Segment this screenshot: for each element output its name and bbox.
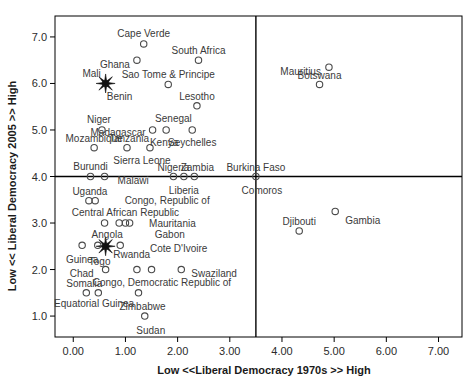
data-point-label: Botswana [298, 70, 342, 81]
data-point-label: Cote D'Ivoire [150, 243, 208, 254]
scatter-chart: 0.001.002.003.004.005.006.007.00 1.02.03… [0, 0, 470, 382]
data-point-label: Sao Tome & Principe [122, 69, 216, 80]
data-point-label: Djibouti [283, 216, 316, 227]
data-point-label: Tanzania [109, 133, 149, 144]
data-point-label: Mali [82, 68, 100, 79]
data-point-label: Benin [107, 91, 133, 102]
data-point-label: Equatorial Guinea [54, 298, 134, 309]
data-point-label: Niger [87, 114, 112, 125]
data-point-label: Burundi [73, 161, 107, 172]
data-point-label: South Africa [172, 45, 226, 56]
x-tick-label: 7.00 [428, 345, 449, 357]
y-tick-label: 4.0 [32, 171, 47, 183]
y-tick-label: 3.0 [32, 217, 47, 229]
data-point-label: Cape Verde [117, 28, 170, 39]
scatter-plot-canvas: 0.001.002.003.004.005.006.007.00 1.02.03… [0, 0, 470, 382]
x-tick-label: 6.00 [376, 345, 397, 357]
x-tick-label: 1.00 [115, 345, 136, 357]
data-point-label: Gambia [345, 215, 380, 226]
data-point-label: Lesotho [179, 91, 215, 102]
data-point-label: Congo, Democratic Republic of [93, 277, 232, 288]
data-point-label: Gabon [155, 229, 185, 240]
y-tick-label: 5.0 [32, 124, 47, 136]
x-axis-title: Low <<Liberal Democracy 1970s >> High [157, 364, 371, 376]
data-point-label: Seychelles [168, 137, 216, 148]
data-point-label: Comoros [242, 185, 283, 196]
y-tick-label: 1.0 [32, 310, 47, 322]
data-point-label: Burkina Faso [226, 162, 285, 173]
data-point-label: Malawi [118, 175, 149, 186]
x-tick-label: 3.00 [219, 345, 240, 357]
data-point-label: Congo, Republic of [125, 195, 210, 206]
data-point-label: Uganda [72, 186, 107, 197]
y-tick-label: 2.0 [32, 264, 47, 276]
data-point-label: Zambia [181, 162, 215, 173]
x-tick-label: 2.00 [167, 345, 188, 357]
chart-background [0, 0, 470, 382]
y-tick-label: 7.0 [32, 31, 47, 43]
data-point-label: Togo [89, 256, 111, 267]
x-tick-label: 5.00 [323, 345, 344, 357]
data-point-label: Senegal [155, 113, 192, 124]
data-point-label: Angola [92, 229, 124, 240]
data-point-label: Sudan [136, 325, 165, 336]
x-tick-label: 0.00 [63, 345, 84, 357]
y-tick-label: 6.0 [32, 77, 47, 89]
y-axis-title: Low << Liberal Democracy 2005 >> High [6, 81, 18, 292]
data-point-label: Rwanda [113, 249, 150, 260]
x-tick-label: 4.00 [271, 345, 292, 357]
data-point-label: Mauritania [149, 218, 196, 229]
